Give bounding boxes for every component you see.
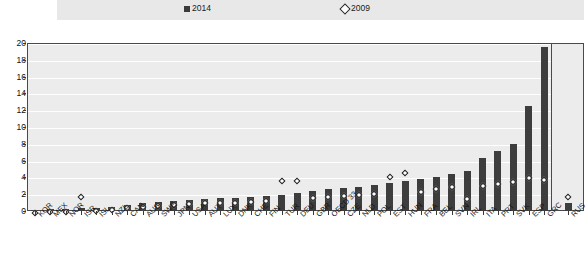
bar (510, 144, 517, 211)
y-axis: 20181614121086420 (0, 43, 26, 211)
open-diamond-icon (339, 3, 350, 14)
y-axis-tick-mark (23, 43, 26, 44)
legend-label-2014: 2014 (192, 3, 211, 14)
y-axis-tick-mark (23, 77, 26, 78)
y-axis-tick-mark (23, 110, 26, 111)
diamond-marker (386, 173, 393, 180)
filled-square-icon (184, 6, 190, 12)
y-axis-tick-mark (23, 177, 26, 178)
legend-item-2009: 2009 (341, 3, 370, 14)
legend-item-2014: 2014 (184, 3, 211, 14)
bar (525, 106, 532, 211)
legend: 2014 2009 (57, 0, 584, 20)
series-layer (27, 43, 552, 211)
y-axis-tick-mark (23, 127, 26, 128)
y-axis-tick-mark (23, 161, 26, 162)
legend-label-2009: 2009 (351, 3, 370, 14)
y-axis-tick-mark (23, 211, 26, 212)
rus-panel (552, 43, 584, 211)
diamond-marker (402, 170, 409, 177)
y-axis-tick-mark (23, 60, 26, 61)
diamond-marker (278, 177, 285, 184)
diamond-marker (294, 177, 301, 184)
y-axis-tick-mark (23, 194, 26, 195)
y-axis-tick-mark (23, 144, 26, 145)
y-axis-tick-mark (23, 93, 26, 94)
bar (541, 47, 548, 211)
x-axis-labels: KORMEXNORISRISLNZLCANAUSSWEJPNUSAAUTLUXD… (27, 213, 584, 255)
